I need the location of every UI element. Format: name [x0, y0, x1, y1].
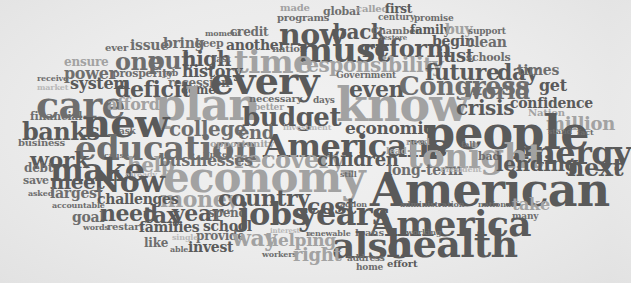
- cloud-word: workers: [262, 250, 297, 258]
- cloud-word: restore: [380, 34, 407, 41]
- cloud-word: fall: [461, 140, 475, 148]
- cloud-word: words: [83, 223, 109, 231]
- cloud-word: effort: [387, 259, 417, 269]
- cloud-word: still: [340, 170, 357, 178]
- cloud-word: home: [356, 263, 383, 272]
- cloud-word: accountable: [52, 201, 105, 209]
- cloud-word: save: [23, 175, 49, 186]
- cloud-word: able: [170, 245, 188, 253]
- cloud-word: debt: [24, 162, 53, 174]
- cloud-word: like: [144, 237, 168, 249]
- cloud-word: invest: [188, 240, 233, 254]
- cloud-word: get: [539, 78, 567, 94]
- cloud-word: largest: [50, 186, 103, 200]
- cloud-word: receive: [37, 74, 68, 82]
- cloud-word: lead: [386, 147, 407, 156]
- cloud-word: right: [293, 246, 342, 264]
